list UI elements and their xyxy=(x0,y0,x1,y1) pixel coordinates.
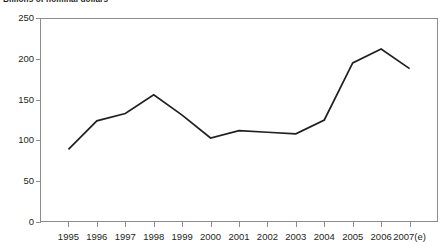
series-line xyxy=(68,49,409,149)
data-series-layer xyxy=(0,0,446,252)
line-chart: Billions of nominal dollars 050100150200… xyxy=(0,0,446,252)
